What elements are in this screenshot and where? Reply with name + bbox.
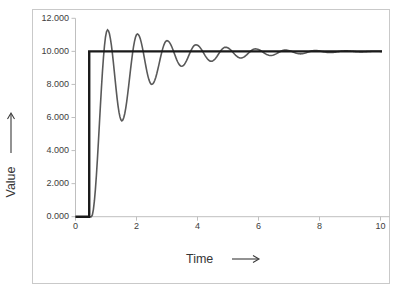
x-tick-label: 8 xyxy=(310,221,330,232)
x-tick-label: 0 xyxy=(66,221,86,232)
y-axis-title: Value xyxy=(1,102,21,206)
x-axis-title: Time xyxy=(186,250,262,268)
x-tick-label: 2 xyxy=(127,221,147,232)
y-axis-title-label: Value xyxy=(4,166,18,197)
value-axis-arrow-icon xyxy=(6,110,16,154)
y-tick-label: 10.000 xyxy=(35,46,69,57)
y-tick-label: 12.000 xyxy=(35,13,69,24)
step-response-chart: Value Time 0.0002.0004.0006.0008.00010.0… xyxy=(0,0,399,295)
y-tick-label: 6.000 xyxy=(35,112,69,123)
series-step-input xyxy=(76,51,383,216)
y-tick-label: 4.000 xyxy=(35,145,69,156)
series-oscillatory-response xyxy=(76,30,383,217)
x-tick-label: 6 xyxy=(249,221,269,232)
x-axis-title-label: Time xyxy=(186,252,213,266)
y-tick-label: 2.000 xyxy=(35,178,69,189)
time-axis-arrow-icon xyxy=(231,254,262,264)
x-tick-label: 10 xyxy=(371,221,391,232)
y-tick-label: 0.000 xyxy=(35,211,69,222)
y-tick-label: 8.000 xyxy=(35,79,69,90)
x-tick-label: 4 xyxy=(188,221,208,232)
